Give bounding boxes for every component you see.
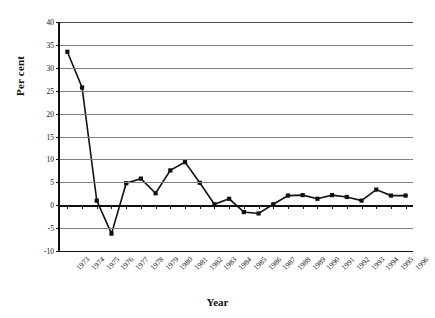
x-axis-tick-label: 1987 xyxy=(281,255,298,272)
x-axis-tick-label: 1985 xyxy=(251,255,268,272)
data-point-marker xyxy=(330,193,334,197)
data-point-marker xyxy=(389,193,393,197)
y-axis-tick xyxy=(56,182,60,183)
x-axis-tick-label: 1979 xyxy=(163,255,180,272)
x-axis-tick xyxy=(200,205,201,209)
y-axis-tick-label: 25 xyxy=(47,86,55,95)
zero-axis-line xyxy=(60,205,413,207)
y-axis-tick xyxy=(56,45,60,46)
data-point-marker xyxy=(301,193,305,197)
data-point-marker xyxy=(80,85,84,89)
x-axis-tick xyxy=(317,205,318,209)
data-point-marker xyxy=(95,199,99,203)
x-axis-tick-label: 1994 xyxy=(384,255,401,272)
y-axis-tick-label: -5 xyxy=(48,224,54,233)
gridline xyxy=(60,45,413,46)
x-axis-tick-label: 1992 xyxy=(354,255,371,272)
data-point-marker xyxy=(109,232,113,236)
y-axis-title: Per cent xyxy=(14,6,26,96)
y-axis-tick xyxy=(56,251,60,252)
y-axis-tick xyxy=(56,159,60,160)
x-axis-tick xyxy=(244,205,245,209)
x-axis-tick xyxy=(229,205,230,209)
y-axis-tick xyxy=(56,114,60,115)
data-point-marker xyxy=(168,168,172,172)
data-point-marker xyxy=(404,193,408,197)
data-point-marker xyxy=(183,160,187,164)
x-axis-tick-label: 1989 xyxy=(310,255,327,272)
gridline xyxy=(60,22,413,23)
y-axis-tick-label: 10 xyxy=(47,155,55,164)
gridline xyxy=(60,114,413,115)
data-point-marker xyxy=(242,210,246,214)
data-point-marker xyxy=(227,197,231,201)
x-axis-tick-label: 1993 xyxy=(369,255,386,272)
x-axis-tick xyxy=(362,205,363,209)
x-axis-tick xyxy=(185,205,186,209)
y-axis-tick-label: 0 xyxy=(50,201,54,210)
x-axis-tick xyxy=(141,205,142,209)
x-axis-tick-label: 1978 xyxy=(148,255,165,272)
data-point-marker xyxy=(315,197,319,201)
x-axis-tick xyxy=(288,205,289,209)
x-axis-tick xyxy=(170,205,171,209)
x-axis-tick-label: 1986 xyxy=(266,255,283,272)
x-axis-tick xyxy=(303,205,304,209)
x-axis-tick xyxy=(111,205,112,209)
line-chart: Per cent 4035302520151050-5-10 Year 1973… xyxy=(0,0,435,318)
y-axis-tick xyxy=(56,228,60,229)
x-axis-tick xyxy=(156,205,157,209)
data-point-marker xyxy=(286,193,290,197)
data-point-marker xyxy=(154,191,158,195)
x-axis-tick xyxy=(82,205,83,209)
y-axis-tick xyxy=(56,68,60,69)
x-axis-tick-label: 1977 xyxy=(134,255,151,272)
x-axis-tick-label: 1984 xyxy=(237,255,254,272)
gridline xyxy=(60,159,413,160)
x-axis-tick xyxy=(406,205,407,209)
y-axis-tick xyxy=(56,137,60,138)
x-axis-tick-label: 1976 xyxy=(119,255,136,272)
x-axis-tick xyxy=(126,205,127,209)
x-axis-tick xyxy=(97,205,98,209)
data-point-marker xyxy=(65,50,69,54)
x-axis-tick-label: 1991 xyxy=(339,255,356,272)
x-axis-tick-label: 1990 xyxy=(325,255,342,272)
x-axis-tick-label: 1988 xyxy=(295,255,312,272)
x-axis-tick-label: 1995 xyxy=(398,255,415,272)
data-point-marker xyxy=(345,195,349,199)
gridline xyxy=(60,91,413,92)
x-axis-tick xyxy=(347,205,348,209)
data-point-marker xyxy=(374,188,378,192)
x-axis-tick xyxy=(67,205,68,209)
data-point-marker xyxy=(139,177,143,181)
x-axis-tick xyxy=(332,205,333,209)
x-axis-tick-label: 1973 xyxy=(75,255,92,272)
y-axis-tick xyxy=(56,91,60,92)
y-axis-tick-label: 20 xyxy=(47,109,55,118)
y-axis-tick-label: 40 xyxy=(47,18,55,27)
y-axis-tick-label: -10 xyxy=(44,247,54,256)
gridline xyxy=(60,228,413,229)
y-axis-tick-label: 35 xyxy=(47,40,55,49)
gridline xyxy=(60,182,413,183)
y-axis-tick-label: 15 xyxy=(47,132,55,141)
x-axis-tick xyxy=(376,205,377,209)
y-axis-tick-label: 30 xyxy=(47,63,55,72)
x-axis-tick-label: 1996 xyxy=(413,255,430,272)
x-axis-tick xyxy=(391,205,392,209)
x-axis-tick-label: 1980 xyxy=(178,255,195,272)
data-point-marker xyxy=(359,199,363,203)
x-axis-tick-label: 1981 xyxy=(192,255,209,272)
x-axis-title: Year xyxy=(0,296,435,308)
x-axis-tick-label: 1983 xyxy=(222,255,239,272)
x-axis-tick xyxy=(273,205,274,209)
x-axis-tick-label: 1974 xyxy=(89,255,106,272)
gridline xyxy=(60,68,413,69)
plot-area: 4035302520151050-5-10 xyxy=(58,22,413,252)
data-point-marker xyxy=(256,211,260,215)
y-axis-tick xyxy=(56,22,60,23)
y-axis-tick-label: 5 xyxy=(50,178,54,187)
x-axis-tick xyxy=(214,205,215,209)
gridline xyxy=(60,137,413,138)
